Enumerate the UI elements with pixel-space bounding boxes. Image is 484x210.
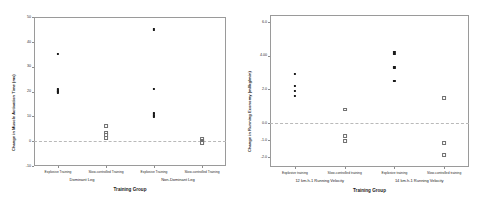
- x-axis-tick-mark: [345, 167, 346, 169]
- y-axis-tick-label: 0: [17, 139, 31, 143]
- data-point: [104, 124, 108, 128]
- figure-root: Change in Muscle Activation Time (ms)504…: [0, 0, 484, 210]
- x-axis-category-label: Slow-controlled training: [327, 171, 361, 175]
- y-axis-tick-mark: [268, 56, 270, 57]
- x-axis-group-label: Dominant Leg: [70, 177, 95, 182]
- x-axis-tick-mark: [444, 167, 445, 169]
- zero-reference-line: [270, 123, 469, 124]
- y-axis-tick-label: 30: [17, 64, 31, 68]
- y-axis-tick-mark: [32, 17, 34, 18]
- data-point: [442, 96, 446, 100]
- y-axis-tick-label: -10: [17, 164, 31, 168]
- x-axis-tick-mark: [394, 167, 395, 169]
- y-axis-tick-mark: [32, 67, 34, 68]
- x-axis-category-label: Explosive Training: [45, 170, 72, 174]
- zero-reference-line: [34, 141, 226, 142]
- y-axis-tick-mark: [32, 166, 34, 167]
- y-axis-tick-mark: [32, 42, 34, 43]
- data-point: [442, 153, 446, 157]
- y-axis-title: Change in Muscle Activation Time (ms): [11, 74, 16, 151]
- y-axis-tick-label: 50: [17, 15, 31, 19]
- y-axis-tick-label: 10: [17, 114, 31, 118]
- y-axis-tick-mark: [32, 92, 34, 93]
- y-axis-tick-label: 0.0: [253, 121, 267, 125]
- x-axis-tick-mark: [58, 166, 59, 168]
- panel-muscle-activation: Change in Muscle Activation Time (ms)504…: [0, 0, 242, 210]
- y-axis-tick-label: -1.0: [253, 138, 267, 142]
- y-axis-tick-label: 2.0: [253, 87, 267, 91]
- data-point: [104, 136, 108, 140]
- data-point: [343, 108, 347, 112]
- x-axis-tick-mark: [202, 166, 203, 168]
- y-axis-tick-label: 20: [17, 89, 31, 93]
- x-axis-category-label: Slow-controlled Training: [88, 170, 123, 174]
- x-axis-tick-mark: [295, 167, 296, 169]
- data-point: [442, 141, 446, 145]
- x-axis-tick-mark: [154, 166, 155, 168]
- x-axis-category-label: Explosive training: [282, 171, 308, 175]
- x-axis-category-label: Explosive Training: [141, 170, 168, 174]
- plot-frame: [34, 17, 226, 166]
- plot-frame: [270, 15, 469, 167]
- y-axis-tick-label: 4.00: [253, 53, 267, 57]
- x-axis-title: Training Group: [353, 188, 386, 193]
- y-axis-title: Change in Running Economy (ml/kg/min): [247, 71, 252, 152]
- y-axis-tick-mark: [268, 89, 270, 90]
- x-axis-title: Training Group: [114, 187, 147, 192]
- y-axis-tick-label: 6.0: [253, 20, 267, 24]
- x-axis-category-label: Explosive training: [381, 171, 407, 175]
- x-axis-group-label: 14 km.h-1 Running Velocity: [395, 178, 444, 183]
- data-point: [343, 139, 347, 143]
- x-axis-group-label: Non-Dominant Leg: [161, 177, 195, 182]
- y-axis-tick-mark: [268, 22, 270, 23]
- y-axis-tick-label: 40: [17, 40, 31, 44]
- data-point: [200, 141, 204, 145]
- y-axis-tick-mark: [268, 157, 270, 158]
- x-axis-group-label: 12 km.h-1 Running Velocity: [295, 178, 344, 183]
- y-axis-tick-mark: [32, 116, 34, 117]
- y-axis-tick-mark: [268, 140, 270, 141]
- x-axis-tick-mark: [106, 166, 107, 168]
- x-axis-category-label: Slow-controlled Training: [184, 170, 219, 174]
- x-axis-category-label: Slow-controlled training: [427, 171, 461, 175]
- panel-running-economy: Change in Running Economy (ml/kg/min)6.0…: [242, 0, 484, 210]
- y-axis-tick-label: -2.0: [253, 155, 267, 159]
- data-point: [343, 134, 347, 138]
